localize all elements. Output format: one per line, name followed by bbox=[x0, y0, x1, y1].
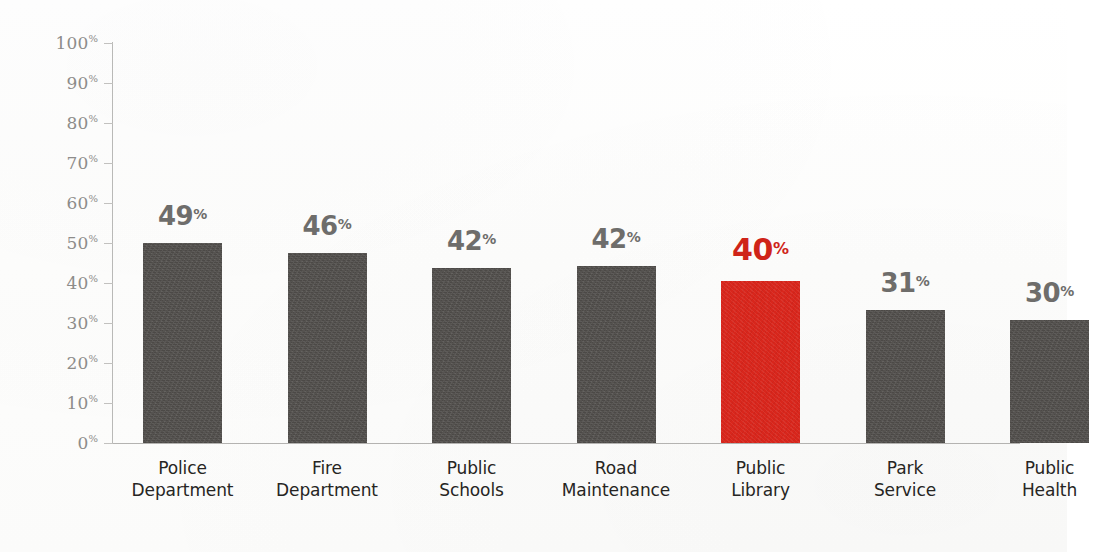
bar[interactable] bbox=[1010, 320, 1089, 443]
bar-value-label: 49% bbox=[143, 203, 222, 229]
category-label-line1: Fire bbox=[312, 458, 342, 478]
y-tick-percent-sign: % bbox=[88, 113, 98, 124]
bar[interactable] bbox=[288, 253, 367, 443]
bar-value-percent-sign: % bbox=[482, 230, 496, 246]
y-tick-percent-sign: % bbox=[88, 433, 98, 444]
category-label-line1: Park bbox=[887, 458, 923, 478]
bar-value-percent-sign: % bbox=[627, 228, 641, 244]
y-axis-tick-label: 90% bbox=[66, 74, 98, 92]
category-label-line1: Road bbox=[595, 458, 637, 478]
bar-value-percent-sign: % bbox=[773, 239, 789, 258]
y-axis-tick bbox=[104, 243, 113, 244]
y-axis-tick bbox=[104, 363, 113, 364]
y-tick-number: 100 bbox=[55, 33, 88, 53]
y-axis-tick-label: 60% bbox=[66, 194, 98, 212]
bar-slot: 42% bbox=[432, 268, 511, 443]
bar-value-label: 42% bbox=[432, 228, 511, 254]
y-tick-number: 30 bbox=[66, 313, 88, 333]
y-tick-percent-sign: % bbox=[88, 33, 98, 44]
bar-value-percent-sign: % bbox=[916, 272, 930, 288]
bar-slot: 31% bbox=[866, 310, 945, 443]
y-tick-percent-sign: % bbox=[88, 153, 98, 164]
bar-slot: 49% bbox=[143, 243, 222, 443]
x-axis-category-label: ParkService bbox=[834, 458, 977, 502]
y-axis-tick bbox=[104, 163, 113, 164]
x-axis-category-label: PublicLibrary bbox=[689, 458, 832, 502]
bar-value-number: 31 bbox=[880, 268, 915, 298]
bar-value-number: 30 bbox=[1025, 278, 1060, 308]
x-axis-category-label: RoadMaintenance bbox=[545, 458, 688, 502]
y-tick-percent-sign: % bbox=[88, 273, 98, 284]
bar-slot: 40% bbox=[721, 281, 800, 443]
bar-highlighted[interactable] bbox=[721, 281, 800, 443]
y-axis-tick-label: 100% bbox=[55, 34, 98, 52]
category-label-line2: Department bbox=[256, 480, 399, 502]
y-tick-percent-sign: % bbox=[88, 193, 98, 204]
y-tick-number: 70 bbox=[66, 153, 88, 173]
bar-value-label: 42% bbox=[577, 226, 656, 252]
y-axis-tick-label: 50% bbox=[66, 234, 98, 252]
y-axis-tick-label: 10% bbox=[66, 394, 98, 412]
y-axis-tick-label: 0% bbox=[77, 434, 98, 452]
bar-value-percent-sign: % bbox=[193, 206, 207, 222]
bar-slot: 46% bbox=[288, 253, 367, 443]
x-axis-category-label: FireDepartment bbox=[256, 458, 399, 502]
y-tick-number: 50 bbox=[66, 233, 88, 253]
bar-value-percent-sign: % bbox=[1060, 282, 1074, 298]
bar-value-number: 42 bbox=[447, 226, 482, 256]
category-label-line2: Schools bbox=[400, 480, 543, 502]
category-label-line2: Maintenance bbox=[545, 480, 688, 502]
y-tick-percent-sign: % bbox=[88, 313, 98, 324]
bar[interactable] bbox=[143, 243, 222, 443]
y-tick-percent-sign: % bbox=[88, 353, 98, 364]
bar-value-number: 40 bbox=[732, 232, 773, 267]
category-label-line2: Service bbox=[834, 480, 977, 502]
x-axis-category-label: PublicSchools bbox=[400, 458, 543, 502]
y-axis-tick-label: 30% bbox=[66, 314, 98, 332]
category-label-line1: Public bbox=[447, 458, 497, 478]
category-label-line1: Police bbox=[158, 458, 207, 478]
y-tick-number: 40 bbox=[66, 273, 88, 293]
y-axis-tick bbox=[104, 43, 113, 44]
y-tick-number: 0 bbox=[77, 433, 88, 453]
bar-slot: 42% bbox=[577, 266, 656, 443]
x-axis-baseline bbox=[112, 443, 1020, 444]
bar-value-label: 40% bbox=[721, 235, 800, 265]
category-label-line2: Health bbox=[978, 480, 1093, 502]
category-label-line1: Public bbox=[1025, 458, 1075, 478]
category-label-line2: Library bbox=[689, 480, 832, 502]
x-axis-category-label: PoliceDepartment bbox=[111, 458, 254, 502]
bar-value-number: 42 bbox=[591, 224, 626, 254]
y-tick-number: 20 bbox=[66, 353, 88, 373]
x-axis-category-label: PublicHealth bbox=[978, 458, 1093, 502]
category-label-line2: Department bbox=[111, 480, 254, 502]
y-tick-number: 60 bbox=[66, 193, 88, 213]
y-axis-tick bbox=[104, 283, 113, 284]
y-axis-tick-label: 80% bbox=[66, 114, 98, 132]
y-axis-tick bbox=[104, 403, 113, 404]
y-axis-tick-label: 70% bbox=[66, 154, 98, 172]
bar-value-label: 31% bbox=[866, 270, 945, 296]
y-tick-number: 80 bbox=[66, 113, 88, 133]
y-tick-number: 90 bbox=[66, 73, 88, 93]
y-tick-percent-sign: % bbox=[88, 393, 98, 404]
y-axis-tick bbox=[104, 443, 113, 444]
bar[interactable] bbox=[432, 268, 511, 443]
y-tick-percent-sign: % bbox=[88, 233, 98, 244]
y-axis-tick-label: 40% bbox=[66, 274, 98, 292]
category-label-line1: Public bbox=[736, 458, 786, 478]
y-axis-tick bbox=[104, 203, 113, 204]
bar-slot: 30% bbox=[1010, 320, 1089, 443]
y-axis-tick bbox=[104, 323, 113, 324]
bar[interactable] bbox=[577, 266, 656, 443]
bar-value-label: 46% bbox=[288, 213, 367, 239]
y-tick-percent-sign: % bbox=[88, 73, 98, 84]
bar-value-number: 46 bbox=[302, 211, 337, 241]
y-axis-tick-label: 20% bbox=[66, 354, 98, 372]
bar-value-percent-sign: % bbox=[338, 216, 352, 232]
bar-value-number: 49 bbox=[158, 201, 193, 231]
bar-value-label: 30% bbox=[1010, 280, 1089, 306]
y-tick-number: 10 bbox=[66, 393, 88, 413]
bar[interactable] bbox=[866, 310, 945, 443]
